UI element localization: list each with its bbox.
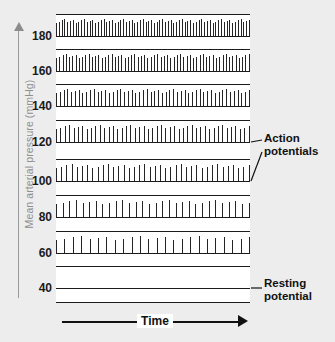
spike-train-80 (56, 199, 250, 218)
trace-upper-baseline (56, 14, 250, 15)
spike-train-180 (56, 18, 250, 37)
time-axis-right-arrow-icon (238, 315, 248, 327)
trace-upper-baseline (56, 49, 250, 50)
y-tick-120: 120 (0, 135, 52, 149)
spike-train-120 (56, 124, 250, 143)
annotation-action-potentials: Action potentials (264, 132, 318, 157)
plot-panel (56, 14, 250, 302)
trace-baseline (56, 142, 250, 143)
y-tick-100: 100 (0, 174, 52, 188)
trace-baseline (56, 181, 250, 182)
y-tick-60: 60 (0, 246, 52, 260)
figure-canvas: Mean arterial pressure (mmHg) 1801601401… (0, 0, 335, 342)
trace-baseline (56, 253, 250, 254)
trace-baseline (56, 217, 250, 218)
trace-baseline (56, 288, 250, 289)
spike-train-160 (56, 53, 250, 72)
action-potential-spikes (56, 164, 250, 181)
trace-upper-baseline (56, 84, 250, 85)
y-tick-180: 180 (0, 29, 52, 43)
action-potential-spikes (56, 236, 250, 253)
annotation-resting-potential: Resting potential (264, 277, 312, 302)
trace-upper-baseline (56, 231, 250, 232)
spike-train-60 (56, 235, 250, 254)
y-tick-80: 80 (0, 210, 52, 224)
trace-upper-baseline (56, 120, 250, 121)
action-potential-spikes (56, 54, 250, 71)
trace-upper-baseline (56, 266, 250, 267)
time-axis: Time (62, 312, 248, 330)
action-potential-spikes (56, 89, 250, 106)
y-tick-160: 160 (0, 64, 52, 78)
y-axis-tick-labels: 180160140120100806040 (0, 0, 52, 342)
spike-train-40 (56, 270, 250, 289)
y-tick-40: 40 (0, 281, 52, 295)
time-axis-label: Time (137, 314, 173, 328)
action-potential-spikes (56, 125, 250, 142)
y-tick-140: 140 (0, 99, 52, 113)
trace-lower-baseline (56, 302, 250, 303)
action-potential-spikes (56, 19, 250, 36)
trace-baseline (56, 71, 250, 72)
action-potential-spikes (56, 200, 250, 217)
trace-upper-baseline (56, 159, 250, 160)
trace-baseline (56, 36, 250, 37)
trace-baseline (56, 106, 250, 107)
spike-train-140 (56, 88, 250, 107)
trace-upper-baseline (56, 195, 250, 196)
spike-train-100 (56, 163, 250, 182)
